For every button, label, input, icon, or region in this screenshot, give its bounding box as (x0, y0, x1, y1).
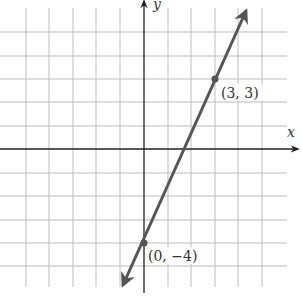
x-axis-label: x (287, 124, 295, 140)
point-label-0-neg4: (0, −4) (148, 248, 197, 264)
point-label-3-3: (3, 3) (221, 85, 259, 101)
point-3-3 (212, 76, 219, 83)
coordinate-plane: x y (3, 3) (0, −4) (0, 0, 302, 297)
y-axis-label: y (152, 0, 162, 12)
point-0-neg4 (141, 240, 148, 247)
